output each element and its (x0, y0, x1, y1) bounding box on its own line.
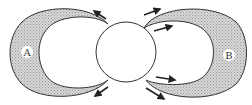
arrow-bottom-right-inner-icon (156, 77, 175, 80)
label-b: B (225, 50, 232, 61)
arrow-top-right-inner-icon (154, 26, 172, 31)
central-circle (96, 22, 156, 82)
label-b-badge: B (223, 49, 235, 61)
arrow-top-right-outer-icon (144, 9, 160, 15)
label-a: A (22, 47, 31, 58)
label-a-badge: A (21, 46, 33, 58)
diagram-canvas: A B (0, 0, 252, 105)
